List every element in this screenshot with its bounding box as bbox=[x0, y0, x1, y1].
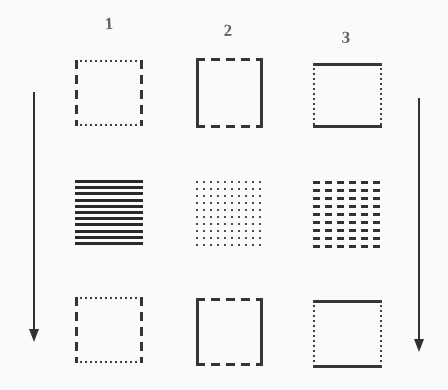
column-header-1: 1 bbox=[89, 13, 130, 35]
down-arrow-right-shaft bbox=[418, 98, 420, 340]
swatch-r1c1-top-edge bbox=[75, 60, 143, 62]
pattern-plate-figure: 1 2 3 bbox=[0, 0, 448, 390]
swatch-r3c2-right-edge bbox=[260, 298, 263, 366]
swatch-r1c3 bbox=[313, 63, 382, 128]
swatch-r1c3-bottom-edge bbox=[313, 125, 382, 128]
swatch-r1c1-right-edge bbox=[140, 60, 143, 126]
down-arrow-left-head bbox=[29, 329, 39, 342]
swatch-r2c1-stripes bbox=[75, 180, 143, 248]
swatch-r1c2-top-edge bbox=[196, 58, 263, 61]
swatch-r3c2-bottom-edge bbox=[196, 363, 263, 366]
swatch-r3c3-bottom-edge bbox=[313, 365, 382, 368]
swatch-r3c1-top-edge bbox=[75, 297, 143, 299]
swatch-r3c3-right-edge bbox=[380, 300, 382, 368]
column-header-2: 2 bbox=[208, 21, 248, 42]
swatch-r3c1-left-edge bbox=[75, 297, 78, 363]
swatch-r3c3-top-edge bbox=[313, 300, 382, 303]
swatch-r3c2-left-edge bbox=[196, 298, 199, 366]
swatch-r1c2-bottom-edge bbox=[196, 125, 263, 128]
swatch-r1c2-right-edge bbox=[260, 58, 263, 128]
swatch-r1c3-left-edge bbox=[313, 63, 315, 128]
column-header-3: 3 bbox=[326, 27, 367, 48]
swatch-r1c1 bbox=[75, 60, 143, 126]
down-arrow-right-head bbox=[414, 339, 424, 352]
swatch-r1c1-left-edge bbox=[75, 60, 78, 126]
swatch-r3c3-left-edge bbox=[313, 300, 315, 368]
swatch-r1c2-left-edge bbox=[196, 58, 199, 128]
down-arrow-left-shaft bbox=[33, 92, 35, 330]
swatch-r3c3 bbox=[313, 300, 382, 368]
swatch-r1c2 bbox=[196, 58, 263, 128]
swatch-r2c2-dot-matrix bbox=[196, 181, 264, 250]
swatch-r3c2 bbox=[196, 298, 263, 366]
swatch-r3c1-right-edge bbox=[140, 297, 143, 363]
swatch-r2c3-dash-matrix bbox=[313, 181, 383, 250]
swatch-r3c1 bbox=[75, 297, 143, 363]
swatch-r1c3-top-edge bbox=[313, 63, 382, 66]
swatch-r3c1-bottom-edge bbox=[75, 361, 143, 363]
swatch-r1c3-right-edge bbox=[380, 63, 382, 128]
swatch-r3c2-top-edge bbox=[196, 298, 263, 301]
swatch-r1c1-bottom-edge bbox=[75, 124, 143, 126]
